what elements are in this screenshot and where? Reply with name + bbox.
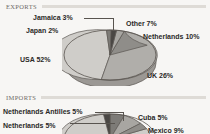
exports-jamaica-leader-horizontal [84, 18, 114, 19]
exports-chart-panel: Jamaica 3% Japan 2% USA 52% Other 7% Net… [0, 10, 210, 88]
imports-header-rule [41, 96, 206, 99]
imports-label-mexico: Mexico 9% [148, 127, 184, 134]
exports-label-usa: USA 52% [20, 56, 50, 64]
exports-slice-usa [62, 30, 110, 80]
imports-label-netherlands: Netherlands 5% [3, 122, 56, 130]
exports-label-other: Other 7% [126, 20, 157, 28]
exports-header-rule [42, 5, 206, 8]
exports-label-japan: Japan 2% [26, 27, 58, 35]
exports-header-label: EXPORTS [0, 3, 37, 10]
imports-netherlands-leader-horizontal [70, 123, 115, 124]
exports-label-netherlands: Netherlands 10% [143, 33, 199, 41]
imports-chart-panel: Netherlands Antilles 5% Netherlands 5% C… [0, 100, 210, 134]
imports-label-netherlands-antilles: Netherlands Antilles 5% [3, 108, 83, 116]
infographic-root: EXPORTS [0, 0, 210, 134]
imports-antilles-leader-vertical [123, 112, 124, 121]
exports-label-uk: UK 26% [147, 72, 173, 80]
exports-label-jamaica: Jamaica 3% [33, 14, 73, 22]
imports-antilles-leader-horizontal [95, 112, 124, 113]
exports-jamaica-leader-vertical [113, 18, 114, 30]
imports-label-cuba: Cuba 5% [138, 114, 168, 122]
